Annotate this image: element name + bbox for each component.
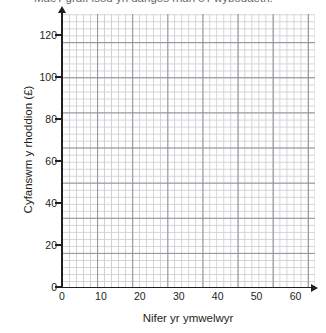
x-tick-label: 10 [86, 291, 116, 302]
x-axis-line [61, 287, 313, 289]
y-axis-line [61, 12, 63, 288]
major-gridlines [62, 14, 315, 288]
x-tick-label: 60 [281, 291, 311, 302]
y-axis-arrow-icon [58, 6, 66, 13]
x-tick-label: 40 [203, 291, 233, 302]
plot-area [62, 14, 315, 288]
x-axis-arrow-icon [311, 284, 318, 292]
y-axis-label: Cyfanswm y rhoddion (£) [22, 55, 35, 245]
x-tick-label: 0 [47, 291, 77, 302]
x-tick-label: 30 [164, 291, 194, 302]
x-tick-label: 50 [242, 291, 272, 302]
x-tick-label: 20 [125, 291, 155, 302]
y-tick-label: 120 [23, 30, 57, 41]
page-title: Mae'r graff isod yn dangos rhan o'r wybo… [34, 0, 316, 5]
x-axis-label: Nifer yr ymwelwyr [62, 312, 314, 325]
